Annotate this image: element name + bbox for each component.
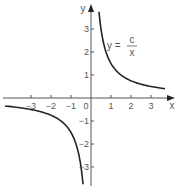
y-tick-label: 1	[84, 70, 89, 80]
curve-negative-branch	[5, 106, 83, 184]
x-tick-label: 2	[128, 101, 133, 111]
x-tick-label: 1	[108, 101, 113, 111]
x-tick-label: −1	[66, 101, 76, 111]
equation-denominator: x	[130, 47, 135, 58]
y-tick-label: 2	[84, 47, 89, 57]
equation-lhs: y =	[107, 40, 121, 51]
x-tick-label: 0	[83, 101, 88, 111]
y-tick-label: 3	[84, 24, 89, 34]
hyperbola-chart: −3−2−10123−3−2−1123yxy =cx	[0, 0, 184, 193]
axes	[3, 4, 175, 186]
x-tick-label: −3	[26, 101, 36, 111]
y-axis-label: y	[81, 3, 86, 14]
y-tick-label: −1	[79, 116, 89, 126]
y-tick-label: −3	[79, 162, 89, 172]
x-tick-label: 3	[148, 101, 153, 111]
equation-numerator: c	[130, 34, 135, 45]
y-axis-arrow-icon	[88, 4, 94, 12]
y-tick-label: −2	[79, 139, 89, 149]
x-axis-label: x	[170, 100, 175, 111]
x-tick-label: −2	[46, 101, 56, 111]
